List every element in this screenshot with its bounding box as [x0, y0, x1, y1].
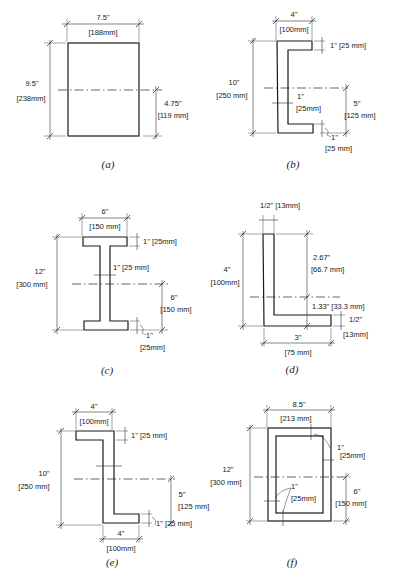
upper-mm-label: [66.7 mm] — [311, 265, 344, 274]
height-label: 12" — [222, 465, 233, 474]
height-mm-label: [300 mm] — [16, 280, 47, 289]
wall-left-label: 1" — [291, 482, 298, 491]
bottom-flange-mm-label: [25mm] — [140, 343, 165, 352]
centroid-mm-label: [119 mm] — [158, 111, 189, 120]
i-beam-section — [83, 237, 128, 330]
width-mm-label: [213 mm] — [280, 414, 311, 423]
cross-section-diagrams: 7.5" [188mm] 9.5" [238mm] 4.75" [119 mm]… — [0, 0, 393, 582]
top-width-label: 4" — [91, 402, 98, 411]
caption-d: (d) — [286, 363, 299, 376]
height-mm-label: [300 mm] — [210, 478, 241, 487]
caption-e: (e) — [106, 556, 119, 569]
height-label: 10" — [228, 78, 239, 87]
bottom-flange-label: 1" — [331, 133, 338, 142]
width-mm-label: [75 mm] — [284, 348, 311, 357]
channel-section — [277, 41, 313, 133]
caption-f: (f) — [287, 556, 298, 569]
thickness-label: 1/2" [13mm] — [260, 201, 300, 210]
flange-label: 1" [25 mm] — [131, 431, 167, 440]
angle-section — [263, 234, 331, 326]
bottom-width-label: 4" — [118, 529, 125, 538]
centroid-label: 1.33" [33.3 mm] — [312, 302, 365, 311]
upper-label: 2.67" — [313, 253, 331, 262]
height-mm-label: [100mm] — [210, 278, 239, 287]
z-section — [76, 431, 139, 523]
centroid-label: 6" — [354, 487, 361, 496]
flange-label: 1" [25 mm] — [330, 41, 366, 50]
width-label: 4" — [291, 10, 298, 19]
centroid-label: 4.75" — [164, 99, 182, 108]
leg-thickness-mm-label: [13mm] — [343, 330, 368, 339]
figure-b-channel: 4" [100mm] 1" [25 mm] 10" [250 mm] 1" [2… — [216, 10, 375, 171]
figure-f-box: 8.5" [213 mm] 1" [25mm] 12" [300 mm] 6" … — [210, 400, 366, 569]
web-label: 1" [25 mm] — [113, 263, 149, 272]
height-label: 9.5" — [25, 79, 38, 88]
width-mm-label: [100mm] — [279, 25, 308, 34]
width-mm-label: [150 mm] — [89, 222, 120, 231]
centroid-mm-label: [125 mm] — [178, 502, 209, 511]
bottom-flange-label: 1" — [146, 331, 153, 340]
centroid-label: 5" — [354, 99, 361, 108]
height-mm-label: [250 mm] — [18, 482, 49, 491]
centroid-mm-label: [125 mm] — [344, 111, 375, 120]
caption-a: (a) — [102, 158, 115, 171]
width-label: 8.5" — [292, 400, 305, 409]
width-mm-label: [188mm] — [88, 28, 117, 37]
figure-d-angle: 1/2" [13mm] 4" [100mm] 2.67" [66.7 mm] 1… — [210, 201, 368, 376]
centroid-label: 6" — [171, 293, 178, 302]
centroid-mm-label: [150 mm] — [335, 499, 366, 508]
centroid-mm-label: [150 mm] — [160, 305, 191, 314]
top-width-mm-label: [100mm] — [79, 417, 108, 426]
leg-thickness-label: 1/2" — [349, 315, 362, 324]
web-label: 1" — [297, 92, 304, 101]
figure-e-z-section: 4" [100mm] 1" [25 mm] 10" [250 mm] 5" [1… — [18, 402, 209, 569]
bottom-flange-mm-label: [25 mm] — [325, 144, 352, 153]
caption-c: (c) — [101, 364, 114, 377]
height-label: 10" — [38, 469, 49, 478]
wall-top-mm-label: [25mm] — [340, 451, 365, 460]
centroid-label: 5" — [179, 490, 186, 499]
bottom-width-mm-label: [100mm] — [106, 544, 135, 553]
height-label: 4" — [224, 265, 231, 274]
rectangle-section — [68, 43, 139, 136]
wall-left-mm-label: [25mm] — [291, 494, 316, 503]
flange-label: 1" [25mm] — [143, 237, 177, 246]
box-outer — [268, 428, 331, 521]
figure-a-rectangle: 7.5" [188mm] 9.5" [238mm] 4.75" [119 mm]… — [16, 13, 188, 171]
width-label: 6" — [102, 207, 109, 216]
width-label: 3" — [295, 333, 302, 342]
web-mm-label: [25mm] — [296, 104, 321, 113]
caption-b: (b) — [287, 158, 300, 171]
height-mm-label: [238mm] — [16, 94, 45, 103]
width-label: 7.5" — [96, 13, 109, 22]
height-mm-label: [250 mm] — [216, 91, 247, 100]
figure-c-i-beam: 6" [150 mm] 1" [25mm] 12" [300 mm] 1" [2… — [16, 207, 191, 377]
height-label: 12" — [34, 267, 45, 276]
bottom-flange-label: 1" [25 mm] — [156, 519, 192, 528]
